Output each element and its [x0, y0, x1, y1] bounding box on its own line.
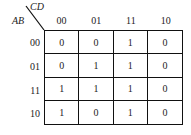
kmap-cell: 0	[148, 54, 182, 77]
kmap-cell: 1	[79, 78, 113, 101]
kmap-cell: 1	[79, 54, 113, 77]
row-header: 10	[22, 108, 40, 119]
column-header: 01	[79, 15, 114, 26]
row-header: 00	[22, 37, 40, 48]
row-header: 11	[22, 85, 40, 96]
kmap-cell: 0	[79, 31, 113, 54]
kmap-cell: 0	[148, 31, 182, 54]
kmap-cell: 0	[79, 101, 113, 124]
kmap-cell: 1	[45, 78, 79, 101]
kmap-cell: 1	[114, 31, 148, 54]
column-header: 00	[44, 15, 79, 26]
kmap-cell: 1	[114, 54, 148, 77]
column-header: 11	[114, 15, 149, 26]
kmap-cell: 1	[114, 101, 148, 124]
kmap-cell: 1	[114, 78, 148, 101]
row-header: 01	[22, 61, 40, 72]
kmap-cell: 0	[148, 78, 182, 101]
karnaugh-map-grid: 0 0 1 0 0 1 1 0 1 1 1 0 1 0 1 0	[44, 30, 183, 125]
column-variable-label: CD	[30, 2, 44, 12]
kmap-cell: 0	[45, 31, 79, 54]
kmap-cell: 0	[148, 101, 182, 124]
row-variable-label: AB	[12, 16, 24, 26]
kmap-cell: 1	[45, 101, 79, 124]
column-header: 10	[148, 15, 183, 26]
kmap-cell: 0	[45, 54, 79, 77]
